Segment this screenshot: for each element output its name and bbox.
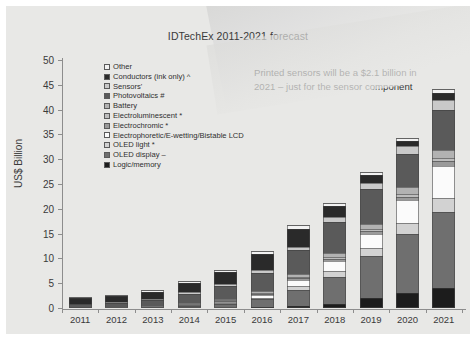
legend-swatch-icon <box>104 152 110 158</box>
x-tick-mark <box>280 309 281 313</box>
legend-swatch-icon <box>104 142 110 148</box>
bar-2020 <box>396 138 419 308</box>
bar-2013 <box>141 290 164 308</box>
y-tick-label: 20 <box>14 203 54 214</box>
y-tick-label: 10 <box>14 253 54 264</box>
x-tick-mark <box>389 309 390 313</box>
legend-item: Electroluminescent * <box>104 111 244 121</box>
bar-outline <box>432 89 455 308</box>
legend-label: Sensors' <box>113 82 142 92</box>
legend-item: Electrophoretic/E-wetting/Bistable LCD <box>104 131 244 141</box>
bar-2016 <box>251 251 274 308</box>
legend-swatch-icon <box>104 162 110 168</box>
legend-label: OLED display – <box>113 150 166 160</box>
bar-2011 <box>69 297 92 308</box>
bar-outline <box>360 172 383 308</box>
legend-label: Conductors (ink only) ^ <box>113 72 190 82</box>
legend-label: Battery <box>113 101 137 111</box>
legend-item: Electrochromic * <box>104 121 244 131</box>
legend-label: Logic/memory <box>113 160 161 170</box>
x-tick-mark <box>244 309 245 313</box>
y-tick-label: 35 <box>14 129 54 140</box>
bar-outline <box>287 225 310 308</box>
x-tick-mark <box>426 309 427 313</box>
bar-outline <box>251 251 274 308</box>
legend-swatch-icon <box>104 93 110 99</box>
stacked-bar-chart: IDTechEx 2011-2021 forecast US$ Billion … <box>6 6 470 334</box>
legend-item: Battery <box>104 101 244 111</box>
bar-2019 <box>360 172 383 308</box>
x-tick-mark <box>317 309 318 313</box>
screenshot-page: IDTechEx 2011-2021 forecast US$ Billion … <box>0 0 476 348</box>
bar-2018 <box>323 203 346 308</box>
bar-outline <box>396 138 419 308</box>
chart-legend: OtherConductors (ink only) ^Sensors'Phot… <box>104 62 244 170</box>
x-tick-label: 2021 <box>422 314 466 325</box>
scanned-page-background: IDTechEx 2011-2021 forecast US$ Billion … <box>6 6 470 334</box>
bar-2014 <box>178 281 201 308</box>
legend-label: Other <box>113 62 132 72</box>
x-tick-mark <box>62 309 63 313</box>
y-tick-label: 50 <box>14 55 54 66</box>
legend-label: Electroluminescent * <box>113 111 182 121</box>
legend-item: Logic/memory <box>104 160 244 170</box>
legend-item: OLED display – <box>104 150 244 160</box>
chart-title: IDTechEx 2011-2021 forecast <box>6 30 470 42</box>
legend-label: OLED light * <box>113 140 155 150</box>
x-tick-mark <box>207 309 208 313</box>
bar-2021 <box>432 89 455 308</box>
legend-item: Conductors (ink only) ^ <box>104 72 244 82</box>
y-tick-label: 0 <box>14 303 54 314</box>
legend-label: Photovoltaics # <box>113 91 165 101</box>
y-tick-label: 40 <box>14 104 54 115</box>
bar-outline <box>214 270 237 308</box>
y-tick-label: 30 <box>14 154 54 165</box>
bar-outline <box>178 281 201 308</box>
x-axis-line <box>62 309 466 310</box>
y-tick-label: 25 <box>14 179 54 190</box>
x-tick-mark <box>98 309 99 313</box>
y-tick-label: 15 <box>14 228 54 239</box>
legend-swatch-icon <box>104 123 110 129</box>
bar-2017 <box>287 225 310 308</box>
legend-label: Electrophoretic/E-wetting/Bistable LCD <box>113 131 244 141</box>
legend-swatch-icon <box>104 83 110 89</box>
legend-swatch-icon <box>104 74 110 80</box>
chart-annotation: Printed sensors will be a $2.1 billion i… <box>254 66 434 93</box>
legend-item: OLED light * <box>104 140 244 150</box>
x-tick-mark <box>135 309 136 313</box>
y-tick-label: 5 <box>14 278 54 289</box>
y-tick-label: 45 <box>14 79 54 90</box>
legend-item: Other <box>104 62 244 72</box>
bar-2015 <box>214 270 237 308</box>
legend-label: Electrochromic * <box>113 121 168 131</box>
legend-swatch-icon <box>104 132 110 138</box>
legend-item: Photovoltaics # <box>104 91 244 101</box>
legend-swatch-icon <box>104 64 110 70</box>
bar-outline <box>323 203 346 308</box>
bar-outline <box>69 297 92 308</box>
bar-outline <box>141 290 164 308</box>
x-tick-mark <box>171 309 172 313</box>
x-tick-mark <box>462 309 463 313</box>
x-tick-mark <box>353 309 354 313</box>
bar-2012 <box>105 295 128 308</box>
legend-item: Sensors' <box>104 82 244 92</box>
bar-outline <box>105 295 128 308</box>
legend-swatch-icon <box>104 103 110 109</box>
legend-swatch-icon <box>104 113 110 119</box>
